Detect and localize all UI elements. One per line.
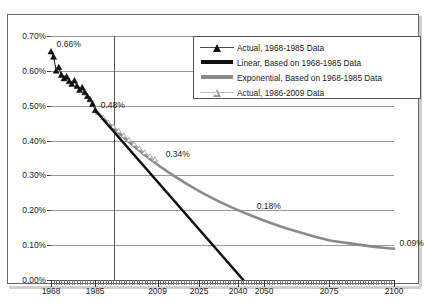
data-point-label: 0.66% bbox=[57, 39, 81, 49]
x-axis-minor-tick bbox=[324, 280, 325, 285]
x-axis-minor-tick bbox=[163, 280, 164, 285]
legend-label: Actual, 1968-1985 Data bbox=[234, 43, 324, 53]
x-axis-minor-tick bbox=[150, 280, 151, 285]
x-axis-minor-tick bbox=[235, 280, 236, 285]
x-axis-minor-tick bbox=[129, 280, 130, 285]
x-axis-minor-tick bbox=[194, 280, 195, 285]
x-axis-minor-tick bbox=[363, 280, 364, 285]
x-axis-tick-label: 2009 bbox=[148, 286, 167, 296]
y-axis-tick-label: 0.40% bbox=[0, 136, 46, 146]
x-axis-minor-tick bbox=[111, 280, 112, 285]
chart-legend: Actual, 1968-1985 Data Linear, Based on … bbox=[193, 36, 421, 99]
legend-item-actual-1986-2009: Actual, 1986-2009 Data bbox=[200, 85, 420, 100]
x-axis-minor-tick bbox=[119, 280, 120, 285]
x-axis-minor-tick bbox=[98, 280, 99, 285]
x-axis-minor-tick bbox=[321, 280, 322, 285]
x-axis-minor-tick bbox=[90, 280, 91, 285]
x-axis-minor-tick bbox=[85, 280, 86, 285]
x-axis-minor-tick bbox=[384, 280, 385, 285]
x-axis-minor-tick bbox=[124, 280, 125, 285]
x-axis-minor-tick bbox=[345, 280, 346, 285]
x-axis-minor-tick bbox=[126, 280, 127, 285]
x-axis-minor-tick bbox=[207, 280, 208, 285]
x-axis-minor-tick bbox=[358, 280, 359, 285]
x-axis-minor-tick bbox=[389, 280, 390, 285]
x-axis-minor-tick bbox=[155, 280, 156, 285]
x-axis-minor-tick bbox=[186, 280, 187, 285]
x-axis-minor-tick bbox=[300, 280, 301, 285]
x-axis-minor-tick bbox=[215, 280, 216, 285]
x-axis-minor-tick bbox=[254, 280, 255, 285]
x-axis-minor-tick bbox=[225, 280, 226, 285]
x-axis-minor-tick bbox=[251, 280, 252, 285]
x-axis-minor-tick bbox=[54, 280, 55, 285]
x-axis-minor-tick bbox=[352, 280, 353, 285]
x-axis-minor-tick bbox=[259, 280, 260, 285]
x-axis-minor-tick bbox=[223, 280, 224, 285]
legend-item-linear: Linear, Based on 1968-1985 Data bbox=[200, 55, 420, 70]
x-axis-minor-tick bbox=[202, 280, 203, 285]
x-axis-minor-tick bbox=[287, 280, 288, 285]
x-axis-minor-tick bbox=[311, 280, 312, 285]
x-axis-minor-tick bbox=[142, 280, 143, 285]
x-axis-minor-tick bbox=[178, 280, 179, 285]
x-axis-minor-tick bbox=[116, 280, 117, 285]
y-axis-tick-mark bbox=[47, 106, 51, 107]
x-axis-minor-tick bbox=[137, 280, 138, 285]
x-axis-minor-tick bbox=[272, 280, 273, 285]
y-axis-tick-label: 0.60% bbox=[0, 66, 46, 76]
x-axis-minor-tick bbox=[145, 280, 146, 285]
x-axis-minor-tick bbox=[274, 280, 275, 285]
x-axis-minor-tick bbox=[80, 280, 81, 285]
chart-title: Actual Data for 1968-2009 bbox=[0, 0, 427, 2]
x-axis-minor-tick bbox=[108, 280, 109, 285]
exponential-trend-line bbox=[95, 110, 394, 248]
x-axis-minor-tick bbox=[298, 280, 299, 285]
x-axis-minor-tick bbox=[56, 280, 57, 285]
x-axis-minor-tick bbox=[319, 280, 320, 285]
x-axis-minor-tick bbox=[103, 280, 104, 285]
x-axis-minor-tick bbox=[87, 280, 88, 285]
filled-triangle-marker bbox=[51, 54, 57, 60]
x-axis-minor-tick bbox=[106, 280, 107, 285]
data-point-label: 0.34% bbox=[166, 149, 190, 159]
x-axis-minor-tick bbox=[189, 280, 190, 285]
filled-triangle-marker bbox=[56, 64, 62, 70]
x-axis-minor-tick bbox=[147, 280, 148, 285]
filled-triangle-marker bbox=[48, 48, 54, 54]
x-axis-minor-tick bbox=[132, 280, 133, 285]
x-axis-minor-tick bbox=[337, 280, 338, 285]
x-axis-minor-tick bbox=[280, 280, 281, 285]
x-axis-minor-tick bbox=[295, 280, 296, 285]
x-axis-minor-tick bbox=[212, 280, 213, 285]
legend-item-actual-1968-1985: Actual, 1968-1985 Data bbox=[200, 40, 420, 55]
x-axis-minor-tick bbox=[360, 280, 361, 285]
x-axis-minor-tick bbox=[121, 280, 122, 285]
x-axis-minor-tick bbox=[184, 280, 185, 285]
x-axis-minor-tick bbox=[171, 280, 172, 285]
y-axis-tick-mark bbox=[47, 141, 51, 142]
x-axis-minor-tick bbox=[217, 280, 218, 285]
x-axis-minor-tick bbox=[269, 280, 270, 285]
x-axis-minor-tick bbox=[386, 280, 387, 285]
x-axis-minor-tick bbox=[61, 280, 62, 285]
filled-triangle-marker bbox=[92, 107, 98, 113]
x-axis-minor-tick bbox=[342, 280, 343, 285]
x-axis-minor-tick bbox=[100, 280, 101, 285]
x-axis-minor-tick bbox=[373, 280, 374, 285]
data-point-label: 0.09% bbox=[400, 238, 424, 248]
y-axis-tick-label: 0.20% bbox=[0, 205, 46, 215]
x-axis-minor-tick bbox=[293, 280, 294, 285]
x-axis-minor-tick bbox=[332, 280, 333, 285]
x-axis-minor-tick bbox=[173, 280, 174, 285]
gray-line-icon bbox=[200, 71, 234, 85]
linear-trend-line bbox=[95, 110, 243, 280]
x-axis-minor-tick bbox=[152, 280, 153, 285]
x-axis-tick-label: 2075 bbox=[320, 286, 339, 296]
x-axis-minor-tick bbox=[371, 280, 372, 285]
x-axis-tick-label: 1968 bbox=[42, 286, 61, 296]
x-axis-minor-tick bbox=[204, 280, 205, 285]
x-axis-minor-tick bbox=[176, 280, 177, 285]
y-axis-tick-label: 0.00% bbox=[0, 275, 46, 285]
x-axis-tick-label: 2100 bbox=[385, 286, 404, 296]
